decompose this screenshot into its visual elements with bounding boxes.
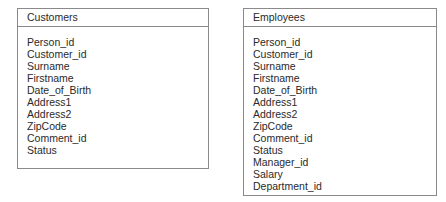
- entity-title: Customers: [18, 9, 208, 27]
- field-person-id: Person_id: [253, 36, 436, 48]
- field-firstname: Firstname: [253, 72, 436, 84]
- field-zipcode: ZipCode: [253, 120, 436, 132]
- field-date-of-birth: Date_of_Birth: [27, 84, 208, 96]
- field-date-of-birth: Date_of_Birth: [253, 84, 436, 96]
- field-customer-id: Customer_id: [27, 48, 208, 60]
- field-comment-id: Comment_id: [253, 132, 436, 144]
- field-address2: Address2: [253, 108, 436, 120]
- field-salary: Salary: [253, 168, 436, 180]
- field-address2: Address2: [27, 108, 208, 120]
- field-firstname: Firstname: [27, 72, 208, 84]
- field-zipcode: ZipCode: [27, 120, 208, 132]
- field-list: Person_id Customer_id Surname Firstname …: [18, 27, 208, 156]
- field-address1: Address1: [27, 96, 208, 108]
- field-comment-id: Comment_id: [27, 132, 208, 144]
- field-status: Status: [27, 144, 208, 156]
- entity-customers: Customers Person_id Customer_id Surname …: [17, 8, 209, 169]
- field-department-id: Department_id: [253, 180, 436, 192]
- field-manager-id: Manager_id: [253, 156, 436, 168]
- entity-employees: Employees Person_id Customer_id Surname …: [243, 8, 437, 196]
- field-customer-id: Customer_id: [253, 48, 436, 60]
- field-surname: Surname: [253, 60, 436, 72]
- entity-title: Employees: [244, 9, 436, 27]
- field-address1: Address1: [253, 96, 436, 108]
- field-surname: Surname: [27, 60, 208, 72]
- field-person-id: Person_id: [27, 36, 208, 48]
- field-status: Status: [253, 144, 436, 156]
- field-list: Person_id Customer_id Surname Firstname …: [244, 27, 436, 192]
